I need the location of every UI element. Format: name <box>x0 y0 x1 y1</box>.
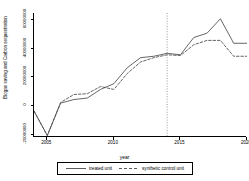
chart-container: Biogas saving and Carbon sequestration -… <box>0 0 249 181</box>
legend-entry-synthetic: synthetic control unit <box>119 166 184 171</box>
x-axis-tick-mark <box>113 137 114 140</box>
legend-line-dashed-icon <box>119 166 139 171</box>
x-axis-tick-mark <box>46 137 47 140</box>
x-axis-title: year <box>0 154 249 160</box>
data-series-group <box>34 19 247 136</box>
x-axis-tick-label: 2015 <box>167 140 191 145</box>
y-axis-tick-label: 60000000 <box>22 0 27 38</box>
y-axis-title: Biogas saving and Carbon sequestration <box>3 0 8 163</box>
legend-line-solid-icon <box>66 166 86 171</box>
legend-label-treated: treated unit <box>89 166 112 171</box>
x-axis-tick-mark <box>179 137 180 140</box>
plot-area <box>33 13 246 137</box>
x-axis-tick-label: 2005 <box>34 140 58 145</box>
series-line-treated-unit <box>34 19 247 136</box>
chart-legend: treated unit synthetic control unit <box>57 162 193 175</box>
x-axis-tick-label: 2020 <box>234 140 249 145</box>
x-axis-tick-label: 2010 <box>101 140 125 145</box>
legend-label-synthetic: synthetic control unit <box>142 166 184 171</box>
plot-svg <box>34 13 247 137</box>
series-line-synthetic-control-unit <box>34 40 247 135</box>
legend-entry-treated: treated unit <box>66 166 112 171</box>
x-axis-tick-mark <box>246 137 247 140</box>
